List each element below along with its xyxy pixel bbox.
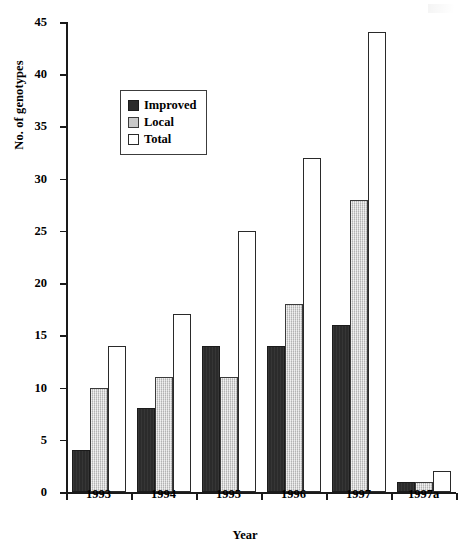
y-axis-tick bbox=[60, 231, 66, 233]
bar-local-1995 bbox=[220, 377, 238, 492]
legend-item-local: Local bbox=[128, 114, 197, 131]
y-axis-tick-label: 45 bbox=[35, 15, 48, 30]
legend-swatch-improved bbox=[128, 100, 139, 111]
x-axis-label-1995: 1995 bbox=[216, 487, 241, 502]
y-axis-tick-label: 5 bbox=[41, 432, 47, 447]
scan-artifact bbox=[428, 4, 454, 13]
x-axis-label-1994: 1994 bbox=[151, 487, 176, 502]
bar-chart-figure: No. of genotypes 051015202530354045 Impr… bbox=[0, 0, 462, 554]
y-axis-tick-label: 35 bbox=[35, 119, 48, 134]
x-axis-tick bbox=[326, 493, 328, 500]
y-axis-tick-label: 15 bbox=[35, 328, 48, 343]
y-axis-tick bbox=[60, 440, 66, 442]
bar-local-1993 bbox=[90, 388, 108, 492]
y-axis-tick bbox=[60, 179, 66, 181]
legend: Improved Local Total bbox=[120, 90, 207, 155]
legend-label-improved: Improved bbox=[144, 99, 197, 112]
legend-swatch-total bbox=[128, 134, 139, 145]
y-axis-tick bbox=[60, 74, 66, 76]
bar-improved-1996 bbox=[267, 346, 285, 492]
bar-local-1997 bbox=[350, 200, 368, 492]
y-axis-tick-label: 0 bbox=[41, 485, 47, 500]
y-axis-tick bbox=[60, 126, 66, 128]
x-axis-tick bbox=[196, 493, 198, 500]
x-axis-tick bbox=[131, 493, 133, 500]
y-axis-tick-label: 40 bbox=[35, 67, 48, 82]
x-axis-label-1997a: 1997a bbox=[408, 487, 439, 502]
bar-improved-1993 bbox=[72, 450, 90, 492]
y-axis-tick-label: 10 bbox=[35, 380, 48, 395]
x-axis-title: Year bbox=[0, 528, 462, 543]
bar-improved-1997 bbox=[332, 325, 350, 492]
bar-total-1996 bbox=[303, 158, 321, 492]
bar-total-1993 bbox=[108, 346, 126, 492]
x-axis-label-1993: 1993 bbox=[86, 487, 111, 502]
legend-swatch-local bbox=[128, 117, 139, 128]
bar-local-1994 bbox=[155, 377, 173, 492]
bar-total-1997 bbox=[368, 32, 386, 492]
legend-item-improved: Improved bbox=[128, 97, 197, 114]
x-axis-tick bbox=[391, 493, 393, 500]
x-axis-title-text: Year bbox=[205, 528, 258, 542]
y-axis-tick-label: 25 bbox=[35, 223, 48, 238]
y-axis-tick bbox=[60, 388, 66, 390]
y-axis-tick bbox=[60, 22, 66, 24]
y-axis-tick-label: 20 bbox=[35, 276, 48, 291]
y-axis-title: No. of genotypes bbox=[10, 10, 28, 200]
legend-label-total: Total bbox=[144, 133, 171, 146]
bar-total-1995 bbox=[238, 231, 256, 492]
bar-improved-1995 bbox=[202, 346, 220, 492]
y-axis-line bbox=[66, 22, 68, 492]
y-axis-tick-label: 30 bbox=[35, 171, 48, 186]
legend-item-total: Total bbox=[128, 131, 197, 148]
x-axis-tick bbox=[66, 493, 68, 500]
y-axis-tick bbox=[60, 335, 66, 337]
y-axis-tick bbox=[60, 283, 66, 285]
x-axis-tick bbox=[261, 493, 263, 500]
x-axis-tick bbox=[456, 493, 458, 500]
bar-improved-1994 bbox=[137, 408, 155, 492]
x-axis-label-1997: 1997 bbox=[346, 487, 371, 502]
legend-label-local: Local bbox=[144, 116, 174, 129]
x-axis-label-1996: 1996 bbox=[281, 487, 306, 502]
bar-local-1996 bbox=[285, 304, 303, 492]
bar-total-1994 bbox=[173, 314, 191, 492]
